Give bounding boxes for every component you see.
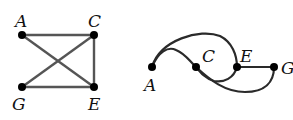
label-g: G — [281, 58, 293, 78]
node-c — [192, 63, 200, 71]
label-a: A — [142, 75, 156, 95]
label-c: C — [88, 11, 101, 31]
node-a — [18, 31, 26, 39]
node-g — [18, 83, 26, 91]
node-a — [148, 63, 156, 71]
label-e: E — [239, 46, 253, 66]
label-a: A — [13, 11, 27, 31]
label-c: C — [202, 46, 215, 66]
label-e: E — [87, 94, 101, 114]
left-graph: A C G E — [12, 11, 101, 114]
right-graph: A C E G — [142, 34, 293, 95]
node-c — [90, 31, 98, 39]
edge-a-c — [152, 49, 196, 67]
node-g — [270, 63, 278, 71]
node-e — [90, 83, 98, 91]
edge-e-c — [196, 67, 237, 81]
graph-diagram: A C G E A C E G — [0, 0, 293, 120]
label-g: G — [12, 94, 26, 114]
